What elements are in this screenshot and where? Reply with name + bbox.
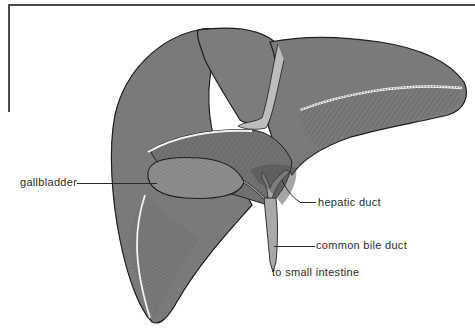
liver-illustration — [0, 0, 475, 332]
liver-diagram: gallbladder hepatic duct common bile duc… — [0, 0, 475, 332]
label-common-bile-duct: common bile duct — [316, 239, 407, 251]
label-hepatic-duct: hepatic duct — [318, 196, 381, 208]
gallbladder-leader-line — [77, 183, 157, 184]
label-to-small-intestine: to small intestine — [272, 266, 359, 278]
common-bile-duct — [264, 198, 278, 272]
hepatic-duct-leader-line — [300, 202, 316, 203]
label-gallbladder: gallbladder — [20, 176, 77, 188]
common-bile-duct-leader-line — [274, 246, 315, 247]
